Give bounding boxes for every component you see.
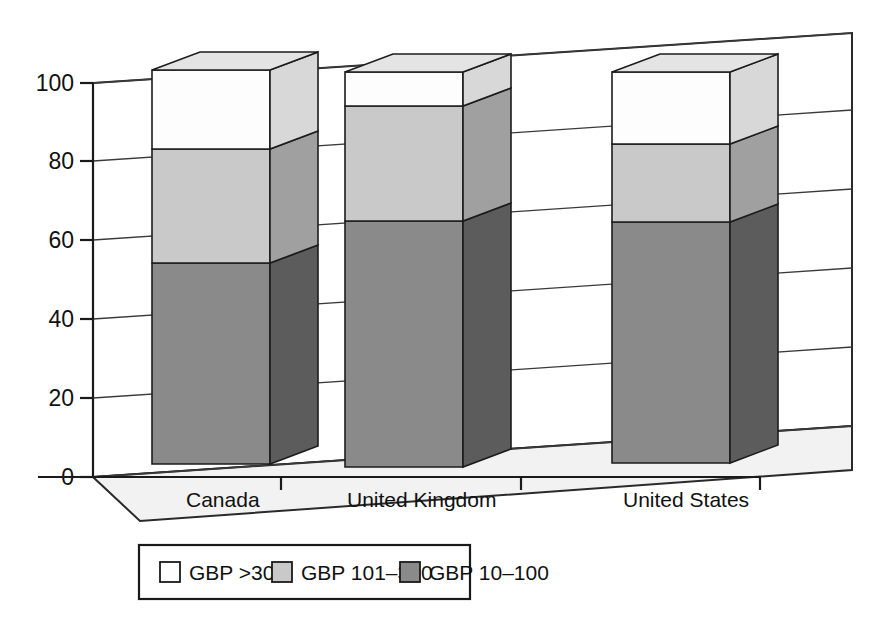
legend-swatch-gbp-over-300[interactable] bbox=[160, 562, 180, 582]
bar-united-states-segment-gbp-10-100-side bbox=[730, 204, 778, 463]
bar-united-kingdom-segment-gbp-10-100-side bbox=[463, 203, 511, 467]
bar-united-kingdom-segment-gbp-over-300-front bbox=[345, 72, 463, 106]
bar-united-kingdom-segment-gbp-10-100-front bbox=[345, 221, 463, 467]
category-label-united-states: United States bbox=[623, 488, 749, 511]
chart-legend: GBP >300 GBP 101–300 GBP 10–100 bbox=[139, 545, 549, 599]
y-tick-label-20: 20 bbox=[48, 385, 74, 411]
category-label-united-kingdom: United Kingdom bbox=[347, 488, 496, 511]
y-tick-label-100: 100 bbox=[36, 70, 74, 96]
bar-canada bbox=[152, 52, 318, 464]
bar-canada-segment-gbp-over-300-front bbox=[152, 70, 270, 149]
chart-container: 100 80 60 40 20 0 bbox=[0, 0, 879, 623]
bar-canada-segment-gbp-101-300-side bbox=[270, 131, 318, 263]
y-tick-label-60: 60 bbox=[48, 227, 74, 253]
stacked-column-chart: 100 80 60 40 20 0 bbox=[0, 0, 879, 623]
legend-swatch-gbp-101-300[interactable] bbox=[272, 562, 292, 582]
bar-united-states-segment-gbp-101-300-front bbox=[612, 144, 730, 222]
bar-united-kingdom-segment-gbp-101-300-side bbox=[463, 88, 511, 221]
bar-united-states-segment-gbp-over-300-front bbox=[612, 72, 730, 144]
y-tick-label-80: 80 bbox=[48, 148, 74, 174]
category-label-canada: Canada bbox=[186, 488, 260, 511]
bar-canada-segment-gbp-10-100-front bbox=[152, 263, 270, 464]
y-axis: 100 80 60 40 20 0 bbox=[36, 70, 93, 490]
bar-united-kingdom-segment-gbp-101-300-front bbox=[345, 106, 463, 221]
bar-canada-segment-gbp-101-300-front bbox=[152, 149, 270, 263]
bar-united-kingdom bbox=[345, 54, 511, 467]
legend-swatch-gbp-10-100[interactable] bbox=[400, 562, 420, 582]
bar-united-states-segment-gbp-10-100-front bbox=[612, 222, 730, 463]
bar-united-states bbox=[612, 54, 778, 463]
bar-canada-segment-gbp-10-100-side bbox=[270, 245, 318, 464]
y-tick-label-40: 40 bbox=[48, 306, 74, 332]
legend-label-gbp-10-100: GBP 10–100 bbox=[429, 561, 549, 584]
